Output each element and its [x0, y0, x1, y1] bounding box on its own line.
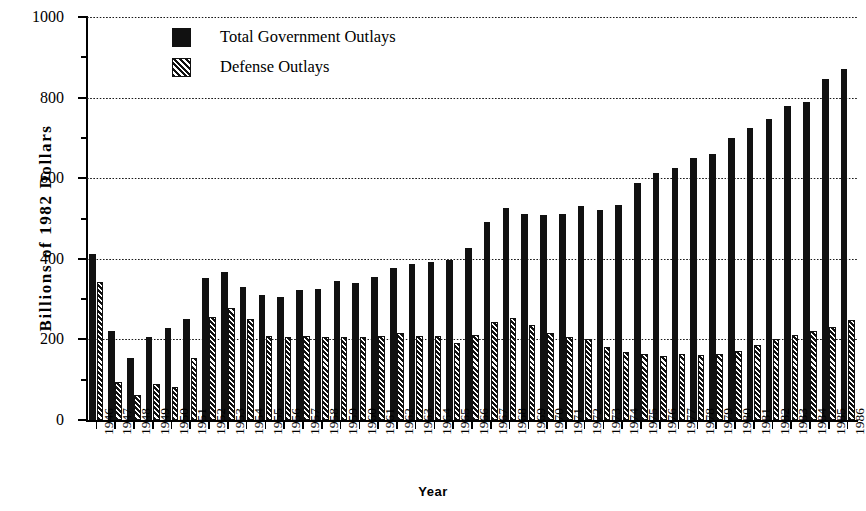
gridline-400 [87, 259, 857, 260]
bar-defense-1946 [97, 282, 104, 420]
y-minor-tick-500 [81, 218, 87, 220]
x-tick-1972 [584, 421, 586, 429]
x-tick-1973 [603, 421, 605, 429]
x-tick-label-1953: 1953 [233, 408, 247, 435]
x-tick-label-1963: 1963 [421, 408, 435, 435]
x-tick-1954 [246, 421, 248, 429]
x-tick-1947 [114, 421, 116, 429]
x-tick-1985 [828, 421, 830, 429]
x-tick-1948 [133, 421, 135, 429]
bar-defense-1968 [510, 318, 517, 420]
y-tick-label-400: 400 [4, 251, 64, 267]
bar-total-1976 [653, 173, 660, 420]
bar-total-1975 [634, 183, 641, 420]
y-tick-600 [78, 177, 87, 179]
x-tick-label-1954: 1954 [252, 408, 266, 435]
x-tick-label-1956: 1956 [289, 408, 303, 435]
bar-defense-1970 [547, 333, 554, 420]
x-tick-label-1964: 1964 [440, 408, 454, 435]
bar-total-1969 [521, 214, 528, 420]
bar-total-1974 [615, 205, 622, 420]
x-tick-label-1962: 1962 [402, 408, 416, 435]
x-tick-1965 [452, 421, 454, 429]
x-tick-1983 [790, 421, 792, 429]
x-tick-label-1969: 1969 [534, 408, 548, 435]
x-tick-1951 [189, 421, 191, 429]
x-tick-1961 [377, 421, 379, 429]
bar-total-1983 [784, 106, 791, 420]
x-tick-1977 [678, 421, 680, 429]
x-tick-1968 [509, 421, 511, 429]
legend-swatch-total-government-outlays [172, 28, 191, 47]
bar-total-1977 [672, 168, 679, 420]
y-tick-400 [78, 258, 87, 260]
x-tick-label-1955: 1955 [271, 408, 285, 435]
x-tick-1971 [565, 421, 567, 429]
y-minor-tick-700 [81, 137, 87, 139]
bar-total-1966 [465, 248, 472, 420]
x-tick-label-1974: 1974 [627, 408, 641, 435]
x-tick-label-1981: 1981 [759, 408, 773, 435]
x-tick-1956 [283, 421, 285, 429]
x-tick-label-1959: 1959 [346, 408, 360, 435]
bar-total-1968 [503, 208, 510, 420]
x-tick-1960 [359, 421, 361, 429]
x-tick-1970 [546, 421, 548, 429]
x-tick-label-1946: 1946 [102, 408, 116, 435]
x-tick-1966 [471, 421, 473, 429]
x-tick-label-1982: 1982 [778, 408, 792, 435]
bar-total-1946 [89, 254, 96, 420]
gridline-600 [87, 178, 857, 179]
legend-swatch-defense-outlays [172, 58, 191, 77]
bar-total-1952 [202, 278, 209, 420]
x-tick-1946 [96, 421, 98, 429]
x-tick-label-1983: 1983 [796, 408, 810, 435]
x-tick-1963 [415, 421, 417, 429]
bar-total-1965 [446, 260, 453, 420]
x-tick-1980 [734, 421, 736, 429]
y-tick-1000 [78, 16, 87, 18]
x-tick-label-1949: 1949 [158, 408, 172, 435]
y-tick-200 [78, 338, 87, 340]
x-tick-label-1952: 1952 [214, 408, 228, 435]
x-tick-label-1980: 1980 [740, 408, 754, 435]
x-tick-1979 [715, 421, 717, 429]
bar-total-1964 [428, 262, 435, 420]
bar-total-1971 [559, 214, 566, 420]
bar-total-1960 [352, 283, 359, 420]
gridline-1000 [87, 17, 857, 18]
x-tick-label-1975: 1975 [646, 408, 660, 435]
bar-total-1981 [747, 128, 754, 420]
x-tick-label-1971: 1971 [571, 408, 585, 435]
y-minor-tick-300 [81, 298, 87, 300]
x-tick-1952 [208, 421, 210, 429]
bar-defense-1986 [848, 320, 855, 420]
x-tick-1981 [753, 421, 755, 429]
x-tick-1955 [265, 421, 267, 429]
bar-defense-1954 [247, 319, 254, 420]
bar-total-1973 [597, 210, 604, 420]
chart-figure: Billions of 1982 Dollars 020040060080010… [0, 0, 866, 511]
bar-defense-1962 [397, 333, 404, 420]
x-tick-label-1960: 1960 [365, 408, 379, 435]
bar-defense-1985 [829, 327, 836, 421]
x-tick-label-1977: 1977 [684, 408, 698, 435]
x-tick-1949 [152, 421, 154, 429]
x-tick-label-1986: 1986 [853, 408, 866, 435]
bar-total-1958 [315, 289, 322, 420]
x-tick-label-1967: 1967 [496, 408, 510, 435]
bar-total-1953 [221, 272, 228, 420]
legend-item-1: Total Government Outlays [172, 22, 396, 52]
x-tick-label-1972: 1972 [590, 408, 604, 435]
x-tick-label-1951: 1951 [195, 408, 209, 435]
x-tick-1953 [227, 421, 229, 429]
bar-defense-1969 [529, 325, 536, 420]
y-minor-tick-100 [81, 379, 87, 381]
x-tick-label-1979: 1979 [721, 408, 735, 435]
x-tick-1964 [434, 421, 436, 429]
x-tick-1967 [490, 421, 492, 429]
x-tick-label-1948: 1948 [139, 408, 153, 435]
bar-total-1967 [484, 222, 491, 420]
bar-defense-1952 [209, 317, 216, 420]
bar-total-1963 [409, 264, 416, 420]
